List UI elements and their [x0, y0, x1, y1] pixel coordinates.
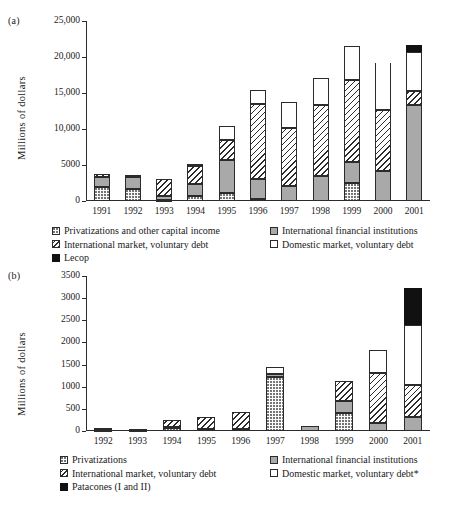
legend-row: International market, voluntary debtDome…	[52, 238, 452, 252]
bar-segment	[404, 288, 422, 325]
y-tick-label: 25,000	[54, 16, 80, 26]
legend-item[interactable]: Privatizations	[60, 453, 127, 466]
y-tick	[82, 165, 86, 166]
y-tick-label: 3500	[61, 271, 80, 281]
bar-segment	[219, 193, 235, 201]
bar-segment	[281, 128, 297, 186]
x-tick-label-1996: 1996	[249, 206, 268, 216]
bar-segment	[94, 174, 110, 177]
x-tick-label-2000: 2000	[369, 436, 388, 446]
bar-2001	[404, 276, 422, 431]
bar-1998	[313, 21, 329, 201]
legend-label: Lecop	[64, 251, 89, 264]
bar-1996	[232, 276, 250, 431]
y-tick-label: 500	[66, 404, 80, 414]
bar-segment	[232, 412, 250, 429]
legend-row: Patacones (I and II)	[60, 480, 460, 494]
legend-item[interactable]: International financial institutions	[270, 453, 418, 466]
bar-segment	[197, 417, 215, 429]
legend-swatch-icon	[270, 240, 278, 248]
legend-label: International financial institutions	[282, 453, 418, 466]
legend-swatch-icon	[52, 240, 60, 248]
y-tick	[82, 276, 86, 277]
bar-2000	[375, 21, 391, 201]
panel-a-y-axis-label: Millions of dollars	[16, 76, 27, 160]
bar-segment	[369, 350, 387, 372]
bar-segment	[404, 417, 422, 431]
bar-segment	[187, 196, 203, 201]
bar-segment	[250, 179, 266, 199]
legend-item[interactable]: Domestic market, voluntary debt*	[270, 467, 419, 480]
legend-row: International market, voluntary debtDome…	[60, 467, 460, 481]
x-tick-label-1996: 1996	[231, 436, 250, 446]
bar-segment	[129, 429, 147, 431]
legend-swatch-icon	[52, 227, 60, 235]
y-tick	[82, 129, 86, 130]
bar-1996	[250, 21, 266, 201]
bar-segment	[94, 430, 112, 432]
x-tick-label-1993: 1993	[155, 206, 174, 216]
y-tick-label: 15,000	[54, 88, 80, 98]
legend-row: Privatizations and other capital incomeI…	[52, 224, 452, 238]
y-tick	[82, 409, 86, 410]
legend-item[interactable]: Lecop	[52, 251, 89, 264]
bar-segment	[266, 367, 284, 374]
legend-item[interactable]: Domestic market, voluntary debt	[270, 238, 414, 251]
bar-1998	[301, 276, 319, 431]
bar-segment	[197, 429, 215, 431]
bar-segment	[125, 177, 141, 189]
bar-segment	[156, 196, 172, 200]
y-tick-label: 2500	[61, 316, 80, 326]
legend-label: Domestic market, voluntary debt	[282, 238, 414, 251]
legend-item[interactable]: International financial institutions	[270, 224, 418, 237]
bar-segment	[375, 63, 391, 110]
bar-segment	[404, 325, 422, 385]
legend-item[interactable]: International market, voluntary debt	[52, 238, 208, 251]
legend-swatch-icon	[270, 227, 278, 235]
bar-segment	[163, 420, 181, 426]
bar-segment	[335, 381, 353, 401]
x-tick-label-1997: 1997	[280, 206, 299, 216]
bar-segment	[187, 184, 203, 195]
bar-segment	[335, 413, 353, 431]
x-tick-label-1994: 1994	[163, 436, 182, 446]
legend-item[interactable]: Patacones (I and II)	[60, 480, 151, 493]
legend-label: Privatizations	[72, 453, 127, 466]
legend-label: International financial institutions	[282, 224, 418, 237]
legend-swatch-icon	[60, 483, 68, 491]
bar-segment	[406, 91, 422, 105]
legend-row: PrivatizationsInternational financial in…	[60, 453, 460, 467]
y-tick-label: 20,000	[54, 52, 80, 62]
y-tick-label: 3000	[61, 293, 80, 303]
bar-segment	[313, 176, 329, 201]
panel-a-legend: Privatizations and other capital incomeI…	[52, 224, 452, 265]
bar-2001	[406, 21, 422, 201]
bar-segment	[156, 179, 172, 195]
bar-segment	[281, 102, 297, 127]
y-tick-label: 0	[75, 196, 80, 206]
x-tick-label-2000: 2000	[374, 206, 393, 216]
bar-segment	[163, 427, 181, 429]
x-tick-label-1995: 1995	[197, 436, 216, 446]
x-tick-label-1995: 1995	[217, 206, 236, 216]
bar-segment	[250, 104, 266, 179]
x-tick-label-1992: 1992	[94, 436, 113, 446]
bar-segment	[313, 105, 329, 176]
bar-1991	[94, 21, 110, 201]
y-tick	[82, 387, 86, 388]
y-tick	[82, 431, 86, 432]
legend-item[interactable]: International market, voluntary debt	[60, 467, 216, 480]
legend-swatch-icon	[60, 456, 68, 464]
bar-segment	[219, 126, 235, 140]
legend-item[interactable]: Privatizations and other capital income	[52, 224, 220, 237]
y-tick-label: 1000	[61, 382, 80, 392]
panel-b-y-axis	[86, 276, 87, 431]
bar-segment	[250, 199, 266, 201]
bar-segment	[375, 171, 391, 201]
legend-label: International market, voluntary debt	[72, 467, 216, 480]
bar-segment	[125, 189, 141, 201]
panel-b-plot-area: 0500100015002000250030003500 19921993199…	[86, 276, 430, 431]
bar-1993	[129, 276, 147, 431]
panel-b-legend: PrivatizationsInternational financial in…	[60, 453, 460, 494]
bar-segment	[187, 164, 203, 166]
